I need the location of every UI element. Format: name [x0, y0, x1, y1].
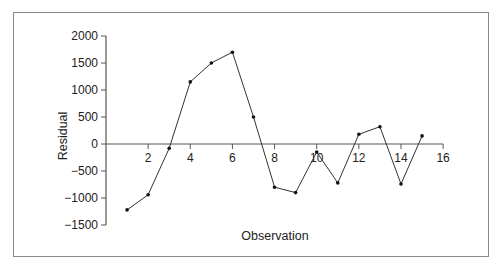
y-tick-label: 500: [78, 110, 98, 124]
data-point-marker: [231, 50, 235, 54]
data-point-marker: [146, 193, 150, 197]
data-point-marker: [294, 191, 298, 195]
x-tick-label: 12: [352, 151, 366, 165]
y-tick-label: 1500: [71, 56, 98, 70]
x-tick-label: 14: [394, 151, 408, 165]
y-axis-title: Residual: [56, 112, 70, 161]
data-point-marker: [252, 115, 256, 119]
data-point-marker: [378, 125, 382, 129]
x-axis: 246810121416: [106, 144, 450, 165]
data-point-marker: [125, 208, 129, 212]
data-point-marker: [273, 185, 277, 189]
data-point-marker: [399, 182, 403, 186]
data-point-marker: [420, 134, 424, 138]
data-point-marker: [336, 181, 340, 185]
data-point-marker: [357, 132, 361, 136]
residual-line-chart: 2000150010005000−500−1000−1500 246810121…: [0, 0, 502, 272]
y-axis: 2000150010005000−500−1000−1500: [64, 29, 106, 232]
x-tick-label: 4: [187, 151, 194, 165]
data-point-marker: [315, 150, 319, 154]
x-tick-label: 16: [436, 151, 450, 165]
data-point-marker: [167, 147, 171, 151]
data-point-marker: [188, 80, 192, 84]
x-tick-label: 8: [271, 151, 278, 165]
data-point-marker: [210, 61, 214, 65]
x-tick-label: 2: [145, 151, 152, 165]
y-tick-label: −1000: [64, 191, 98, 205]
x-tick-label: 6: [229, 151, 236, 165]
x-axis-title: Observation: [241, 229, 308, 243]
y-tick-label: −1500: [64, 218, 98, 232]
data-series: [125, 50, 424, 211]
y-tick-label: 2000: [71, 29, 98, 43]
y-tick-label: 1000: [71, 83, 98, 97]
y-tick-label: −500: [71, 164, 98, 178]
y-tick-label: 0: [91, 137, 98, 151]
